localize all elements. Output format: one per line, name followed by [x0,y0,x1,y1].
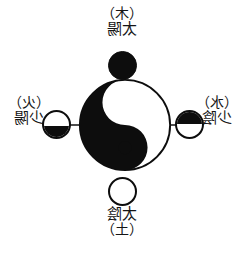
taiji-svg [78,78,172,172]
label-bottom-name: 太陰 [72,206,172,222]
marker-right-half-circle [175,110,204,139]
marker-top-solid-black-circle [108,51,137,80]
marker-right-filled-half [175,111,204,124]
marker-left-half-circle [42,110,71,139]
label-bottom-element: （土） [72,222,172,237]
label-top-name: 太陽 [72,21,172,37]
label-top-taiyang: （木） 太陽 [72,6,172,37]
label-top-element: （木） [72,6,172,21]
label-right-element: （水） [186,95,245,110]
marker-left-filled-half [42,126,71,139]
label-left-element: （火） [0,95,60,110]
taiji-four-symbols-diagram: （木） 太陽 太陰 （土） （火） 少陽 （水） 少陰 [0,0,245,255]
label-bottom-taiyin: 太陰 （土） [72,206,172,237]
marker-bottom-hollow-white-circle [108,177,137,206]
taiji-symbol [78,78,172,172]
